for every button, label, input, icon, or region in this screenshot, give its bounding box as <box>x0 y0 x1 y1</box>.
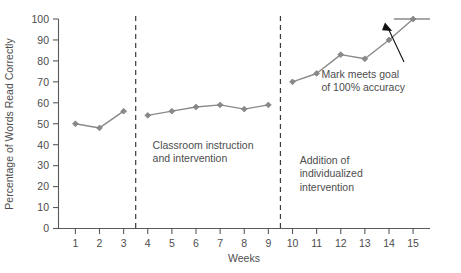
y-tick-label: 90 <box>37 34 49 46</box>
y-tick-label: 40 <box>37 139 49 151</box>
x-tick-label: 6 <box>193 237 199 249</box>
y-tick-label: 30 <box>37 159 49 171</box>
y-tick-label: 10 <box>37 201 49 213</box>
callout-goal-met: Mark meets goalof 100% accuracy <box>321 68 405 94</box>
x-tick-label: 14 <box>383 237 395 249</box>
x-tick-label: 7 <box>217 237 223 249</box>
x-tick-label: 5 <box>169 237 175 249</box>
phase-label-individualized-line: Addition of <box>300 154 350 166</box>
single-case-line-chart: 0102030405060708090100 Percentage of Wor… <box>0 0 461 273</box>
x-tick-label: 13 <box>359 237 371 249</box>
x-tick-label: 4 <box>145 237 151 249</box>
callout-goal-met-line: Mark meets goal <box>321 68 399 80</box>
x-tick-label: 1 <box>72 237 78 249</box>
y-tick-label: 50 <box>37 118 49 130</box>
x-tick-label: 2 <box>97 237 103 249</box>
chart-container: 0102030405060708090100 Percentage of Wor… <box>0 0 461 273</box>
phase-label-classroom-line: Classroom instruction <box>153 139 254 151</box>
y-tick-label: 80 <box>37 55 49 67</box>
x-tick-label: 10 <box>287 237 299 249</box>
phase-label-individualized-line: individualized <box>300 167 363 179</box>
y-tick-label: 0 <box>43 222 49 234</box>
phase-label-classroom-line: and intervention <box>153 152 228 164</box>
y-tick-label: 60 <box>37 97 49 109</box>
x-axis-title: Weeks <box>228 252 260 264</box>
x-tick-label: 12 <box>335 237 347 249</box>
x-tick-label: 11 <box>311 237 322 249</box>
callout-goal-met-line: of 100% accuracy <box>321 81 405 93</box>
phase-label-individualized-line: intervention <box>300 181 354 193</box>
x-tick-label: 8 <box>241 237 247 249</box>
y-tick-label: 70 <box>37 76 49 88</box>
chart-background <box>0 0 461 273</box>
y-tick-label: 20 <box>37 180 49 192</box>
x-tick-label: 15 <box>407 237 419 249</box>
x-tick-label: 9 <box>265 237 271 249</box>
x-tick-label: 3 <box>121 237 127 249</box>
y-tick-label: 100 <box>31 13 49 25</box>
y-axis-title: Percentage of Words Read Correctly <box>3 38 15 210</box>
